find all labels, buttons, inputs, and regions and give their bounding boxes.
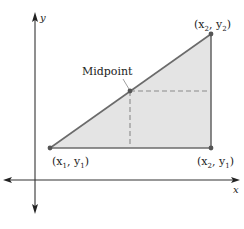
midpoint-diagram: y x Midpoint (x2, y2) (x1, y1) (x2, y1) [0, 0, 244, 229]
point-x1-y1-dot [48, 146, 53, 151]
label-x2-y1: (x2, y1) [197, 155, 234, 170]
point-x2-y1-dot [209, 146, 214, 151]
midpoint-dot [128, 89, 133, 94]
x-axis-label: x [233, 184, 239, 195]
label-x2-y2: (x2, y2) [194, 18, 231, 33]
midpoint-label: Midpoint [82, 65, 133, 78]
y-axis-label: y [39, 12, 46, 23]
point-x2-y2-dot [209, 32, 214, 37]
midpoint-leader-line [123, 79, 129, 89]
label-x1-y1: (x1, y1) [52, 155, 89, 170]
